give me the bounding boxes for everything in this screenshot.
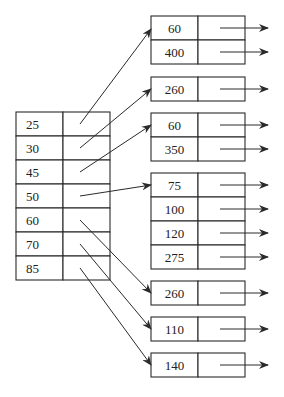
leaf-key-label: 120 [165,226,185,241]
key-label: 70 [26,237,39,252]
key-label: 50 [26,189,39,204]
leaf-key-label: 260 [165,82,185,97]
key-cell [16,160,63,184]
leaf-key-label: 100 [165,202,185,217]
index-structure-diagram: 25304550607085 6040026060350751001202752… [0,0,284,397]
pointer-cell [63,184,110,208]
leaf-node: 260 [151,281,268,305]
leaf-node: 60350 [151,113,268,161]
leaf-key-label: 275 [165,250,185,265]
index-entry: 70 [16,232,110,256]
leaf-key-label: 110 [165,322,184,337]
key-cell [16,232,63,256]
leaf-key-label: 60 [168,21,181,36]
key-cell [16,208,63,232]
diagram-canvas: 25304550607085 6040026060350751001202752… [0,0,284,397]
leaf-node: 75100120275 [151,173,268,269]
leaf-nodes: 604002606035075100120275260110140 [151,16,268,377]
leaf-node: 140 [151,353,268,377]
pointer-cell [63,160,110,184]
leaf-node: 260 [151,77,268,101]
leaf-key-label: 75 [168,178,181,193]
key-label: 45 [26,165,39,180]
index-entry: 60 [16,208,110,232]
index-node: 25304550607085 [16,112,110,280]
key-cell [16,184,63,208]
index-entry: 30 [16,136,110,160]
leaf-key-label: 60 [168,118,181,133]
leaf-node: 110 [151,317,268,341]
index-entry: 45 [16,160,110,184]
leaf-key-label: 260 [165,286,185,301]
leaf-key-label: 400 [165,45,185,60]
key-label: 60 [26,213,39,228]
key-cell [16,256,63,280]
leaf-key-label: 140 [165,358,185,373]
key-label: 30 [26,141,39,156]
leaf-node: 60400 [151,16,268,64]
index-entry: 25 [16,112,110,136]
pointer-cell [63,208,110,232]
key-cell [16,136,63,160]
key-label: 85 [26,261,39,276]
index-entry: 50 [16,184,110,208]
leaf-key-label: 350 [165,142,185,157]
index-pointer-arrow-icon [80,29,151,124]
index-entry: 85 [16,256,110,280]
key-cell [16,112,63,136]
key-label: 25 [26,117,39,132]
